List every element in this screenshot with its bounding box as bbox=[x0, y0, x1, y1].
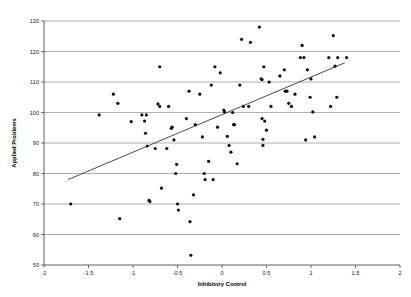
y-tick-label: 100 bbox=[30, 110, 39, 116]
data-point bbox=[210, 83, 213, 86]
data-point bbox=[187, 90, 190, 93]
data-point bbox=[258, 26, 261, 29]
data-point bbox=[165, 147, 168, 150]
data-point bbox=[172, 138, 175, 141]
data-point bbox=[143, 119, 146, 122]
x-tick-label: -1 bbox=[131, 270, 136, 276]
data-point bbox=[203, 172, 206, 175]
data-point bbox=[285, 90, 288, 93]
data-point bbox=[265, 129, 268, 132]
data-point bbox=[201, 135, 204, 138]
x-axis-title: Inhibitory Control bbox=[198, 281, 247, 287]
data-point bbox=[262, 65, 265, 68]
data-point bbox=[336, 56, 339, 59]
data-point bbox=[327, 56, 330, 59]
data-point bbox=[335, 96, 338, 99]
x-tick-label: -0.5 bbox=[173, 270, 183, 276]
data-point bbox=[313, 135, 316, 138]
y-axis-title: Applied Problems bbox=[11, 118, 17, 167]
data-point bbox=[148, 200, 151, 203]
data-point bbox=[301, 44, 304, 47]
data-point bbox=[302, 56, 305, 59]
data-point bbox=[238, 83, 241, 86]
x-tick-label: -2 bbox=[42, 270, 47, 276]
data-point bbox=[188, 220, 191, 223]
data-point bbox=[304, 138, 307, 141]
y-tick-label: 90 bbox=[33, 140, 39, 146]
data-point bbox=[261, 138, 264, 141]
data-point bbox=[69, 202, 72, 205]
data-point bbox=[176, 202, 179, 205]
y-tick-label: 60 bbox=[33, 232, 39, 238]
data-point bbox=[192, 193, 195, 196]
data-point bbox=[268, 80, 271, 83]
data-point bbox=[213, 65, 216, 68]
x-tick-label: 1.5 bbox=[352, 270, 360, 276]
data-point bbox=[332, 34, 335, 37]
data-point bbox=[140, 113, 143, 116]
x-tick-label: 0 bbox=[220, 270, 223, 276]
data-point bbox=[236, 162, 239, 165]
data-point bbox=[212, 178, 215, 181]
data-point bbox=[283, 68, 286, 71]
data-point bbox=[249, 41, 252, 44]
data-point bbox=[144, 132, 147, 135]
y-tick-label: 130 bbox=[30, 18, 39, 24]
axis-titles: Inhibitory Control Applied Problems bbox=[11, 118, 247, 287]
data-point bbox=[185, 117, 188, 120]
data-point bbox=[158, 65, 161, 68]
data-point bbox=[233, 123, 236, 126]
scatter-chart: 5060708090100110120130-2-1.5-1-0.500.511… bbox=[0, 0, 411, 297]
data-point bbox=[98, 113, 101, 116]
data-point bbox=[269, 105, 272, 108]
x-tick-label: 0.5 bbox=[263, 270, 271, 276]
data-point bbox=[261, 144, 264, 147]
data-point bbox=[207, 160, 210, 163]
data-point bbox=[174, 172, 177, 175]
data-point bbox=[116, 102, 119, 105]
data-point bbox=[345, 56, 348, 59]
x-tick-label: -1.5 bbox=[84, 270, 94, 276]
y-tick-label: 50 bbox=[33, 262, 39, 268]
x-tick-label: 1 bbox=[309, 270, 312, 276]
data-point bbox=[198, 93, 201, 96]
y-tick-label: 120 bbox=[30, 49, 39, 55]
y-tick-label: 110 bbox=[30, 79, 39, 85]
data-point bbox=[216, 126, 219, 129]
trend-line bbox=[68, 63, 345, 180]
data-point bbox=[329, 105, 332, 108]
gridlines bbox=[44, 21, 400, 235]
data-point bbox=[219, 71, 222, 74]
data-point bbox=[309, 96, 312, 99]
plot-canvas: 5060708090100110120130-2-1.5-1-0.500.511… bbox=[0, 0, 411, 297]
data-point bbox=[177, 209, 180, 212]
data-point bbox=[167, 105, 170, 108]
data-point bbox=[171, 126, 174, 129]
data-point bbox=[226, 135, 229, 138]
data-point bbox=[189, 254, 192, 257]
data-point bbox=[145, 113, 148, 116]
data-point bbox=[158, 105, 161, 108]
data-point bbox=[299, 56, 302, 59]
data-point bbox=[287, 102, 290, 105]
data-point bbox=[160, 187, 163, 190]
data-point bbox=[306, 68, 309, 71]
data-point bbox=[203, 178, 206, 181]
regression-line bbox=[68, 63, 345, 180]
data-point bbox=[263, 119, 266, 122]
data-point bbox=[247, 105, 250, 108]
y-tick-label: 80 bbox=[33, 171, 39, 177]
data-points bbox=[69, 26, 348, 257]
data-point bbox=[231, 111, 234, 114]
data-point bbox=[154, 147, 157, 150]
data-point bbox=[229, 151, 232, 154]
data-point bbox=[228, 144, 231, 147]
data-point bbox=[118, 217, 121, 220]
y-tick-label: 70 bbox=[33, 201, 39, 207]
data-point bbox=[290, 105, 293, 108]
x-tick-label: 2 bbox=[398, 270, 401, 276]
data-point bbox=[260, 78, 263, 81]
data-point bbox=[260, 117, 263, 120]
data-point bbox=[112, 93, 115, 96]
data-point bbox=[240, 38, 243, 41]
